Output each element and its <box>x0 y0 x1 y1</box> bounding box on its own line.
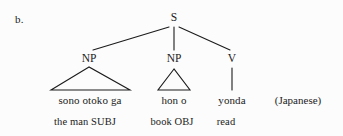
gloss-verb: read <box>217 116 235 127</box>
node-label-subject-np: NP <box>82 52 97 64</box>
subject-np-triangle <box>51 67 130 90</box>
syntax-tree-figure: b. S NP NP V sono otoko ga hon o yonda (… <box>0 0 343 136</box>
gloss-subject: the man SUBJ <box>54 116 116 127</box>
terminal-verb-word: yonda <box>218 94 245 106</box>
node-label-object-np: NP <box>167 52 182 64</box>
node-label-verb: V <box>228 52 236 64</box>
gloss-object: book OBJ <box>150 116 193 127</box>
node-label-s: S <box>171 11 177 23</box>
language-note: (Japanese) <box>275 94 321 106</box>
branch-s-to-subject-np <box>93 27 169 50</box>
terminal-subject-words: sono otoko ga <box>58 94 121 106</box>
terminal-object-words: hon o <box>161 94 186 106</box>
branch-s-to-verb <box>179 27 230 50</box>
object-np-triangle <box>158 69 190 90</box>
